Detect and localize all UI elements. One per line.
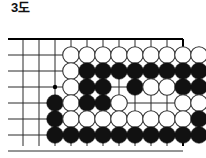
figure-root: 3도 [0, 0, 206, 158]
go-stone-black[interactable] [175, 127, 192, 144]
go-stone-white[interactable] [95, 111, 112, 128]
go-stone-black[interactable] [191, 79, 206, 96]
board-star-points [53, 85, 57, 89]
go-stone-white[interactable] [79, 47, 96, 64]
go-stone-white[interactable] [143, 79, 160, 96]
go-stone-white[interactable] [111, 111, 128, 128]
go-stone-black[interactable] [159, 127, 176, 144]
go-stone-black[interactable] [175, 63, 192, 80]
go-stone-white[interactable] [175, 111, 192, 128]
go-stone-white[interactable] [175, 95, 192, 112]
go-stone-black[interactable] [95, 63, 112, 80]
go-stone-white[interactable] [159, 79, 176, 96]
go-stone-white[interactable] [127, 47, 144, 64]
board-stones[interactable] [47, 47, 206, 144]
go-stone-white[interactable] [127, 111, 144, 128]
go-stone-black[interactable] [127, 127, 144, 144]
go-stone-white[interactable] [143, 111, 160, 128]
go-stone-black[interactable] [143, 63, 160, 80]
go-stone-white[interactable] [63, 95, 80, 112]
go-stone-black[interactable] [47, 111, 64, 128]
go-stone-black[interactable] [191, 63, 206, 80]
go-stone-black[interactable] [175, 79, 192, 96]
go-stone-white[interactable] [95, 47, 112, 64]
go-stone-black[interactable] [47, 127, 64, 144]
go-stone-white[interactable] [175, 47, 192, 64]
go-stone-black[interactable] [79, 63, 96, 80]
go-stone-white[interactable] [79, 111, 96, 128]
figure-title: 3도 [11, 1, 30, 15]
go-stone-black[interactable] [127, 63, 144, 80]
go-stone-black[interactable] [127, 79, 144, 96]
go-stone-black[interactable] [95, 79, 112, 96]
go-stone-white[interactable] [63, 63, 80, 80]
go-stone-black[interactable] [63, 127, 80, 144]
go-stone-white[interactable] [191, 47, 206, 64]
go-stone-black[interactable] [111, 127, 128, 144]
go-stone-black[interactable] [79, 127, 96, 144]
go-stone-white[interactable] [191, 95, 206, 112]
go-board-svg[interactable] [0, 16, 206, 158]
go-stone-white[interactable] [143, 47, 160, 64]
go-stone-black[interactable] [111, 63, 128, 80]
go-stone-black[interactable] [191, 127, 206, 144]
go-stone-white[interactable] [111, 47, 128, 64]
go-stone-black[interactable] [95, 127, 112, 144]
go-stone-black[interactable] [47, 95, 64, 112]
go-stone-black[interactable] [159, 63, 176, 80]
go-stone-black[interactable] [191, 111, 206, 128]
go-stone-white[interactable] [159, 111, 176, 128]
go-stone-black[interactable] [79, 79, 96, 96]
go-stone-white[interactable] [63, 111, 80, 128]
go-board[interactable] [0, 16, 206, 158]
go-stone-black[interactable] [143, 127, 160, 144]
go-stone-black[interactable] [95, 95, 112, 112]
go-stone-white[interactable] [159, 47, 176, 64]
go-stone-white[interactable] [63, 79, 80, 96]
go-stone-black[interactable] [79, 95, 96, 112]
go-stone-white[interactable] [111, 95, 128, 112]
star-point [53, 85, 57, 89]
go-stone-white[interactable] [63, 47, 80, 64]
